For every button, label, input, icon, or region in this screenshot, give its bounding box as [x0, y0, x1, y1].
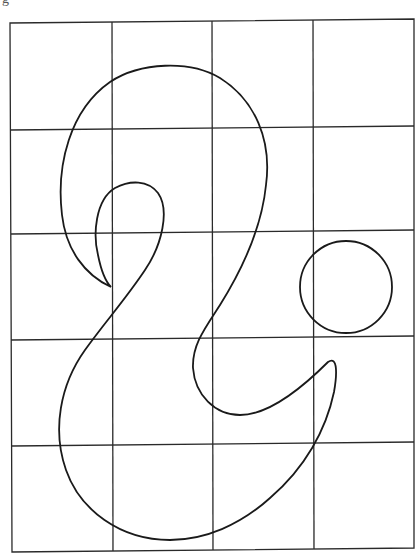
- figure-label: g: [2, 0, 9, 7]
- main-curve: [59, 66, 336, 540]
- grid-col-line: [212, 21, 213, 550]
- grid-col-line: [112, 22, 113, 551]
- grid-figure: g: [0, 0, 415, 560]
- figure-canvas: [0, 0, 415, 560]
- grid-col-line: [313, 20, 314, 549]
- grid: [10, 19, 414, 552]
